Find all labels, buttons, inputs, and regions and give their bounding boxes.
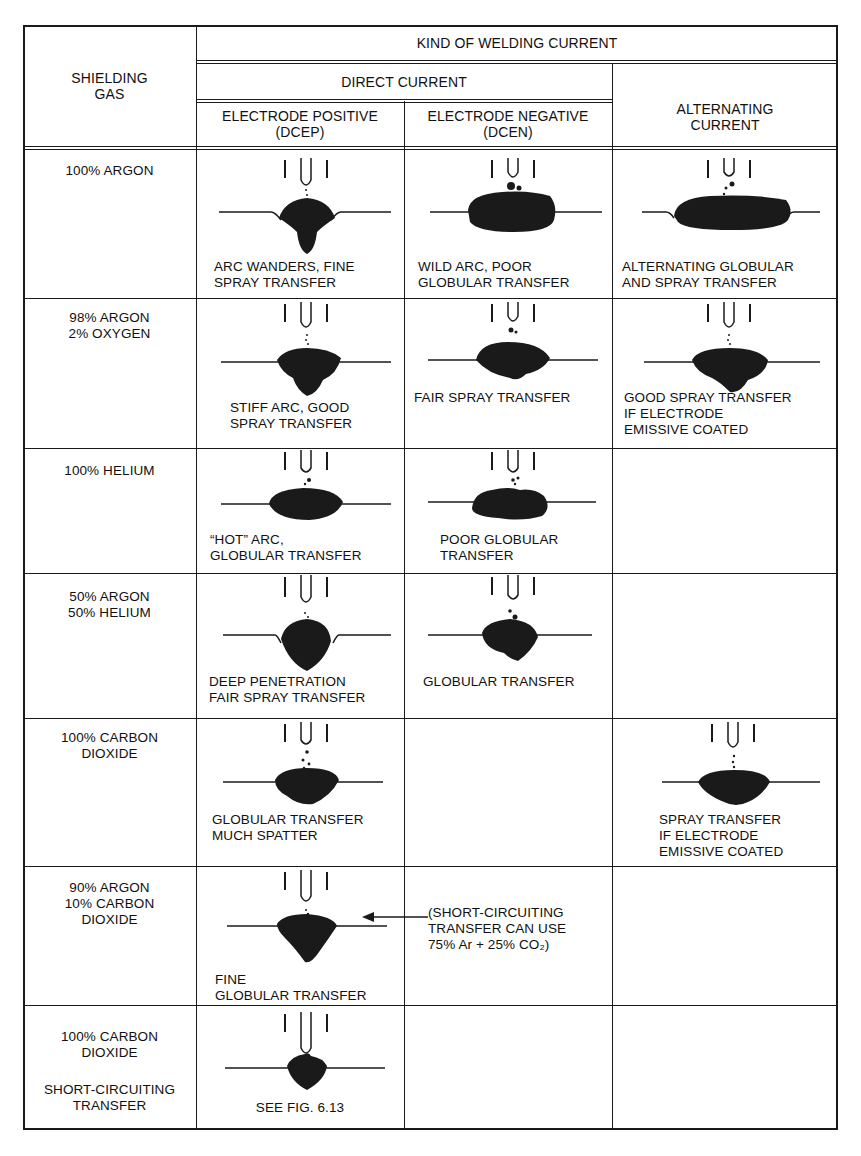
left-arrow-icon [360,910,430,924]
gas-sublabel: SHORT-CIRCUITING TRANSFER [23,1082,196,1114]
row-divider [23,1005,838,1006]
dcen-caption: GLOBULAR TRANSFER [423,674,575,690]
gas-label: 90% ARGON 10% CARBON DIOXIDE [23,880,196,928]
header-alternating-current: ALTERNATING CURRENT [612,101,838,133]
gas-label: 100% HELIUM [23,463,196,479]
header-dcep: ELECTRODE POSITIVE (DCEP) [196,108,404,140]
weld-bead-cross-section-icon [640,150,830,260]
gas-label: 100% ARGON [23,163,196,179]
weld-bead-cross-section-icon [412,298,602,398]
weld-bead-cross-section-icon [205,573,395,673]
dcep-caption: SEE FIG. 6.13 [196,1100,404,1116]
header-divider-kind [196,60,838,64]
weld-bead-cross-section-icon [205,298,395,398]
row-divider [23,866,838,867]
dcen-caption: WILD ARC, POOR GLOBULAR TRANSFER [418,259,570,291]
dcep-caption: DEEP PENETRATION FAIR SPRAY TRANSFER [209,674,365,706]
ac-caption: ALTERNATING GLOBULAR AND SPRAY TRANSFER [622,259,794,291]
dcep-caption: GLOBULAR TRANSFER MUCH SPATTER [212,812,364,844]
header-kind-of-current: KIND OF WELDING CURRENT [196,35,838,51]
weld-bead-cross-section-icon [205,1008,395,1098]
dcep-caption: ARC WANDERS, FINE SPRAY TRANSFER [214,259,355,291]
dcen-caption: POOR GLOBULAR TRANSFER [440,532,558,564]
dcep-caption: FINE GLOBULAR TRANSFER [215,972,367,1004]
weld-bead-cross-section-icon [205,720,395,810]
column-divider-dcep [404,101,405,1130]
weld-bead-cross-section-icon [205,448,395,533]
header-dcen: ELECTRODE NEGATIVE (DCEN) [404,108,612,140]
dcep-caption: “HOT” ARC, GLOBULAR TRANSFER [210,532,362,564]
header-shielding-gas: SHIELDING GAS [23,70,196,102]
header-direct-current: DIRECT CURRENT [196,74,612,90]
weld-bead-cross-section-icon [205,150,395,260]
column-divider-dcen [612,63,613,1130]
gas-label: 98% ARGON 2% OXYGEN [23,310,196,342]
ac-caption: SPRAY TRANSFER IF ELECTRODE EMISSIVE COA… [659,812,783,860]
gas-label: 100% CARBON DIOXIDE [23,730,196,762]
row-divider [23,718,838,719]
weld-bead-cross-section-icon [640,298,830,398]
weld-bead-cross-section-icon [412,448,602,533]
short-circuit-note: (SHORT-CIRCUITING TRANSFER CAN USE 75% A… [428,905,566,953]
gas-label: 100% CARBON DIOXIDE [23,1029,196,1061]
column-divider-gas [196,25,197,1130]
weld-bead-cross-section-icon [412,150,602,260]
weld-bead-cross-section-icon [650,720,840,810]
dcep-caption: STIFF ARC, GOOD SPRAY TRANSFER [230,400,352,432]
gas-label: 50% ARGON 50% HELIUM [23,589,196,621]
weld-bead-cross-section-icon [412,573,602,673]
